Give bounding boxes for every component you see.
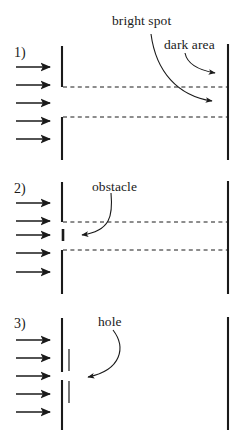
panel-3-group bbox=[16, 317, 228, 430]
panel-1-incident-rays bbox=[16, 67, 50, 139]
obstacle-pointer-arrow bbox=[82, 193, 112, 235]
panel-2-dashed-boundaries bbox=[63, 222, 227, 250]
panel-3-number: 3) bbox=[14, 317, 26, 331]
dark-area-label: dark area bbox=[164, 38, 215, 52]
obstacle-label: obstacle bbox=[92, 180, 137, 194]
dark-area-pointer-arrow bbox=[185, 53, 215, 73]
panel-1-dashed-boundaries bbox=[63, 87, 227, 117]
hole-label: hole bbox=[98, 315, 122, 329]
panel-1-group bbox=[16, 34, 228, 160]
panel-2-group bbox=[16, 181, 228, 294]
panel-3-incident-rays bbox=[16, 340, 50, 412]
figure-canvas bbox=[0, 0, 242, 438]
panel-2-number: 2) bbox=[14, 182, 26, 196]
bright-spot-label: bright spot bbox=[112, 14, 171, 28]
panel-2-incident-rays bbox=[16, 203, 50, 272]
diffraction-figure: 1) bright spot dark area 2) obstacle 3) … bbox=[0, 0, 242, 438]
panel-1-number: 1) bbox=[14, 46, 26, 60]
hole-pointer-arrow bbox=[88, 330, 120, 377]
